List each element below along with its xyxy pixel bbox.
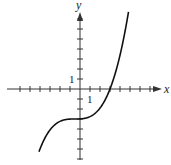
graph: x y 1 1 xyxy=(0,0,171,165)
x-axis-arrow-icon xyxy=(153,86,162,92)
y-axis-arrow-icon xyxy=(77,12,83,21)
y-axis-label: y xyxy=(75,0,82,12)
function-curve xyxy=(39,12,129,152)
x-axis-label: x xyxy=(163,82,170,96)
x-tick-label-1: 1 xyxy=(87,93,93,105)
y-tick-label-1: 1 xyxy=(69,73,75,85)
